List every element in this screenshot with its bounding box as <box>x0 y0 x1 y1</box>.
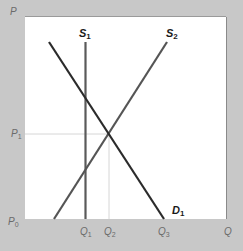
curves-layer <box>0 0 243 251</box>
p0-sub: 0 <box>15 221 19 228</box>
curve-label-s2: S2 <box>166 28 178 40</box>
x-axis-label-text: Q <box>224 226 232 237</box>
diagram-canvas: P Q P1 P0 Q1 Q2 Q3 S1 S2 D1 <box>0 0 243 251</box>
p0-main: P <box>8 216 15 227</box>
x-axis-label: Q <box>224 227 232 237</box>
supply-curve-s2 <box>54 42 167 219</box>
q1-main: Q <box>80 226 88 237</box>
tick-label-p0: P0 <box>8 217 19 228</box>
tick-label-q2: Q2 <box>104 227 116 238</box>
p1-main: P <box>11 128 18 139</box>
curve-label-d1: D1 <box>172 205 184 217</box>
q2-main: Q <box>104 226 112 237</box>
q3-sub: 3 <box>166 231 170 238</box>
p1-sub: 1 <box>18 133 22 140</box>
d1-sub: 1 <box>180 209 184 218</box>
q2-sub: 2 <box>112 231 116 238</box>
y-axis-label: P <box>10 7 17 17</box>
tick-label-q3: Q3 <box>158 227 170 238</box>
q1-sub: 1 <box>88 231 92 238</box>
d1-main: D <box>172 204 180 216</box>
q3-main: Q <box>158 226 166 237</box>
y-axis-label-text: P <box>10 6 17 17</box>
tick-label-p1: P1 <box>11 129 22 140</box>
tick-label-q1: Q1 <box>80 227 92 238</box>
curve-label-s1: S1 <box>79 28 91 40</box>
s2-sub: 2 <box>173 32 177 41</box>
demand-curve-d1 <box>49 42 164 219</box>
s1-sub: 1 <box>86 32 90 41</box>
